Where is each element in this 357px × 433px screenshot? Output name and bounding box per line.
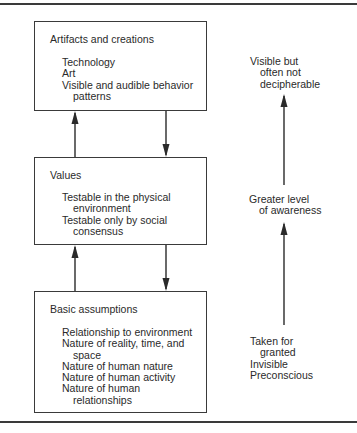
artifacts-list: Technology Art Visible and audible behav… [62,57,193,102]
list-item: Visible and audible behaviorpatterns [62,80,193,103]
awareness-label-bottom: Taken for granted Invisible Preconscious [250,336,313,381]
arrow-awareness-upper [281,94,288,185]
top-rule [0,3,357,5]
values-box: Values Testable in the physicalenvironme… [34,157,207,245]
list-item: Testable in the physicalenvironment [62,192,171,215]
arrow-up-icon [72,111,79,124]
arrow-artifacts-to-values [163,111,170,157]
list-item: Testable only by socialconsensus [62,215,171,238]
arrow-awareness-lower [281,222,288,325]
arrow-assumptions-to-values [72,245,79,291]
awareness-label-middle: Greater level of awareness [249,194,321,217]
assumptions-title: Basic assumptions [50,303,138,315]
assumptions-box: Basic assumptions Relationship to enviro… [34,291,207,413]
artifacts-title: Artifacts and creations [50,33,154,45]
arrow-up-icon [281,222,288,235]
artifacts-box: Artifacts and creations Technology Art V… [34,21,207,111]
list-item: Technology [62,57,193,68]
values-title: Values [50,169,81,181]
arrow-values-to-assumptions [163,245,170,291]
list-item: Nature of humanrelationships [62,383,192,406]
bottom-rule [0,421,357,423]
arrow-down-icon [163,278,170,291]
assumptions-list: Relationship to environment Nature of re… [62,327,192,406]
awareness-label-top: Visible but often not decipherable [250,56,320,90]
values-list: Testable in the physicalenvironment Test… [62,192,171,237]
arrow-values-to-artifacts [72,111,79,157]
arrow-up-icon [72,245,79,258]
arrow-down-icon [163,144,170,157]
arrow-up-icon [281,94,288,107]
list-item: Nature of reality, time, andspace [62,338,192,361]
